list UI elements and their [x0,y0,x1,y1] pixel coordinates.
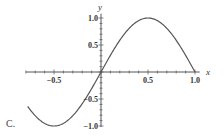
panel-label: C. [6,118,15,129]
x-tick-label: 0.5 [143,76,153,85]
axes [26,14,200,127]
y-tick-label: −0.5 [83,95,98,104]
x-tick-label: −0.5 [47,76,62,85]
x-axis-label: x [205,67,210,77]
y-tick-label: 1.0 [88,14,98,23]
x-tick-label: 1.0 [190,76,200,85]
chart: x y −0.50.51.0−1.0−0.50.51.0 [0,0,224,140]
y-tick-label: −1.0 [83,122,98,131]
y-axis-label: y [97,2,102,12]
y-tick-label: 0.5 [88,41,98,50]
